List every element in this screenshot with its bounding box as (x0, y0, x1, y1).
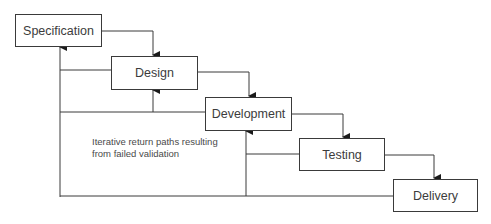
stage-delivery: Delivery (393, 179, 478, 212)
arrow-development-to-testing (291, 114, 343, 137)
stage-specification: Specification (15, 14, 102, 47)
stage-label: Delivery (413, 189, 458, 203)
stage-testing: Testing (299, 138, 385, 171)
stage-design: Design (111, 56, 198, 90)
stage-label: Development (212, 107, 286, 121)
stage-development: Development (205, 97, 292, 131)
arrow-design-to-development (197, 72, 249, 96)
arrow-spec-to-design (101, 31, 153, 55)
arrow-testing-to-delivery (384, 155, 434, 178)
stage-label: Design (135, 66, 174, 80)
stage-label: Testing (322, 148, 362, 162)
stage-label: Specification (23, 24, 94, 38)
iteration-note: Iterative return paths resulting from fa… (92, 136, 232, 160)
